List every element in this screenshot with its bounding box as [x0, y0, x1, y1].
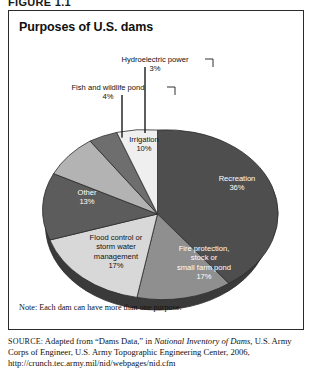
- slice-label-fire-line3: small farm pond: [177, 263, 231, 272]
- slice-label-fire-percent: 17%: [196, 272, 211, 281]
- pie-chart: Hydroelectric power 3% Fish and wildlife…: [9, 11, 304, 330]
- figure-label: FIGURE 1.1: [8, 0, 71, 8]
- slice-label-recreation: Recreation 36%: [195, 174, 279, 193]
- slice-label-fire-line1: Fire protection,: [179, 244, 230, 253]
- callout-fish-wildlife-pond: Fish and wildlife pond 4%: [43, 83, 173, 102]
- source-citation: SOURCE: Adapted from “Dams Data,” in Nat…: [8, 336, 308, 368]
- callout-fish-pond-label: Fish and wildlife pond: [71, 83, 144, 92]
- slice-label-irrigation: Irrigation 10%: [104, 135, 184, 154]
- slice-label-flood-control: Flood control or storm water management …: [64, 233, 168, 271]
- source-title-italic: National Inventory of Dams,: [154, 336, 252, 346]
- slice-label-other: Other 13%: [52, 188, 122, 207]
- callout-hydroelectric-power: Hydroelectric power 3%: [95, 55, 215, 74]
- slice-label-recreation-text: Recreation: [219, 174, 256, 183]
- slice-label-flood-line2: storm water: [96, 242, 136, 251]
- slice-label-irrigation-text: Irrigation: [129, 135, 159, 144]
- callout-hydroelectric-percent: 3%: [150, 64, 161, 73]
- chart-note: Note: Each dam can have more than one pu…: [19, 303, 182, 312]
- callout-hydroelectric-label: Hydroelectric power: [121, 55, 188, 64]
- slice-label-other-text: Other: [78, 188, 97, 197]
- source-text-before: Adapted from “Dams Data,” in: [43, 336, 154, 346]
- slice-label-recreation-percent: 36%: [229, 183, 244, 192]
- slice-label-fire-protection: Fire protection, stock or small farm pon…: [155, 244, 253, 282]
- callout-fish-pond-percent: 4%: [103, 92, 114, 101]
- slice-label-flood-percent: 17%: [108, 261, 123, 270]
- source-label: SOURCE:: [8, 337, 43, 346]
- slice-label-flood-line3: management: [94, 252, 138, 261]
- slice-label-other-percent: 13%: [79, 197, 94, 206]
- slice-label-flood-line1: Flood control or: [90, 233, 143, 242]
- slice-label-fire-line2: stock or: [191, 253, 218, 262]
- chart-panel: Purposes of U.S. dams: [8, 10, 304, 330]
- slice-label-irrigation-percent: 10%: [136, 144, 151, 153]
- callout-leader-lines-2: [122, 67, 145, 138]
